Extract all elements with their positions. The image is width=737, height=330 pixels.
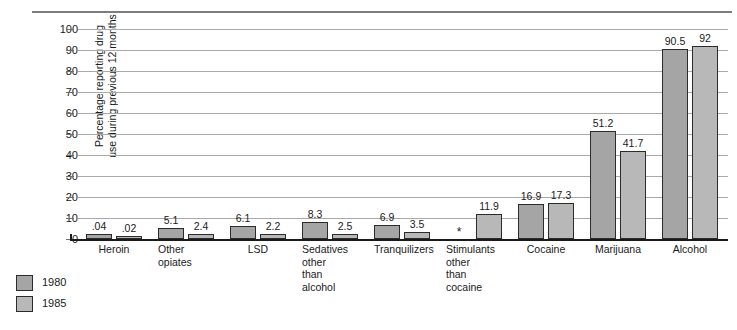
- bar-group: 8.32.5Sedatives other than alcohol: [302, 29, 358, 240]
- bar-value-label: 11.9: [466, 201, 512, 212]
- bar-group: *11.9Stimulants other than cocaine: [446, 29, 502, 240]
- y-tick-mark-80: [66, 71, 74, 72]
- legend-swatch-1980-icon: [16, 275, 33, 291]
- bar-1985-marijuana[interactable]: [620, 151, 646, 239]
- category-label: Heroin: [86, 243, 142, 256]
- y-tick-mark-20: [66, 197, 74, 198]
- bar-1985-cocaine[interactable]: [548, 203, 574, 239]
- bar-value-label: 41.7: [610, 138, 656, 149]
- y-tick-mark-40: [66, 155, 74, 156]
- category-label: Marijuana: [590, 243, 646, 256]
- y-tick-mark-60: [66, 113, 74, 114]
- y-tick-mark-10: [66, 218, 74, 219]
- category-label: Cocaine: [518, 243, 574, 256]
- category-label: Alcohol: [662, 243, 718, 256]
- legend-swatch-1985-icon: [16, 296, 33, 312]
- y-tick-mark-90: [66, 50, 74, 51]
- y-tick-mark-50: [66, 134, 74, 135]
- bar-value-label: .02: [106, 223, 152, 234]
- bar-value-label: 2.4: [178, 221, 224, 232]
- bar-group: 16.917.3Cocaine: [518, 29, 574, 240]
- bar-group: 51.241.7Marijuana: [590, 29, 646, 240]
- category-label: Other opiates: [158, 243, 230, 268]
- bar-value-label: 92: [682, 33, 728, 44]
- y-tick-mark-100: [66, 29, 74, 30]
- category-label: Stimulants other than cocaine: [446, 243, 518, 293]
- no-data-asterisk: *: [446, 227, 472, 237]
- category-label: Sedatives other than alcohol: [302, 243, 374, 293]
- legend-item-1980[interactable]: 1980: [16, 272, 66, 293]
- bar-group: 6.93.5Tranquilizers: [374, 29, 430, 240]
- legend-label-1980: 1980: [42, 277, 66, 288]
- bar-group: 90.592Alcohol: [662, 29, 718, 240]
- bar-1985-tranquilizers[interactable]: [404, 232, 430, 239]
- bar-1985-stimulants[interactable]: [476, 214, 502, 239]
- bar-value-label: 2.5: [322, 221, 368, 232]
- bar-value-label: 3.5: [394, 219, 440, 230]
- bar-1980-alcohol[interactable]: [662, 49, 688, 239]
- x-axis-line: [70, 239, 728, 241]
- bar-group: 5.12.4Other opiates: [158, 29, 214, 240]
- y-tick-mark-30: [66, 176, 74, 177]
- bar-1980-cocaine[interactable]: [518, 204, 544, 239]
- top-divider-rule: [32, 11, 732, 13]
- bar-value-label: 51.2: [580, 118, 626, 129]
- bar-value-label: 8.3: [292, 209, 338, 220]
- bar-group: 6.12.2LSD: [230, 29, 286, 240]
- y-tick-mark-70: [66, 92, 74, 93]
- legend-label-1985: 1985: [42, 298, 66, 309]
- bar-value-label: 2.2: [250, 221, 296, 232]
- bar-value-label: 17.3: [538, 190, 584, 201]
- bar-group: .04.02Heroin: [86, 29, 142, 240]
- legend-item-1985[interactable]: 1985: [16, 293, 66, 314]
- bar-1985-alcohol[interactable]: [692, 46, 718, 239]
- chart-legend: 1980 1985: [16, 272, 66, 314]
- y-axis-origin-tick: [70, 234, 72, 241]
- category-label: LSD: [230, 243, 286, 256]
- chart-plot-area: Percentage reporting drug use during pre…: [78, 29, 728, 240]
- category-label: Tranquilizers: [374, 243, 430, 256]
